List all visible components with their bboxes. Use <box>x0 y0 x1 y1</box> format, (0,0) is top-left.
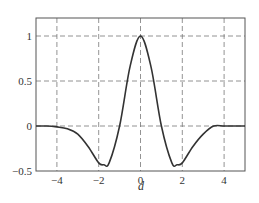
y-tick-label: −0.5 <box>12 165 32 177</box>
x-tick-label: 2 <box>180 174 186 186</box>
chart: −4−2024 −0.500.51 d <box>0 0 259 203</box>
x-tick-label: −4 <box>51 174 63 186</box>
y-tick-label: 0.5 <box>18 75 32 87</box>
x-tick-label: −2 <box>93 174 105 186</box>
x-axis-label: d <box>138 179 145 193</box>
y-tick-labels: −0.500.51 <box>12 30 32 177</box>
y-tick-label: 0 <box>27 120 33 132</box>
grid <box>36 18 245 171</box>
y-tick-label: 1 <box>27 30 33 42</box>
x-tick-label: 4 <box>221 174 227 186</box>
